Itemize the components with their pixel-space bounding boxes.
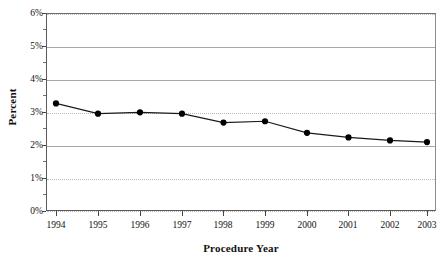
y-tick-label-0: 0% [22, 206, 43, 216]
x-tick-label-1998: 1998 [214, 220, 233, 230]
gridline-5pct [47, 47, 435, 48]
x-tick-label-1999: 1999 [256, 220, 275, 230]
plot-gridlines [47, 14, 435, 210]
x-tick-mark-2003 [427, 211, 428, 216]
y-tick-label-6: 6% [22, 8, 43, 18]
y-tick-label-5: 5% [22, 41, 43, 51]
y-axis-tick-labels: 6% 5% 4% 3% 2% 1% 0% [22, 0, 43, 264]
x-tick-label-2000: 2000 [298, 220, 317, 230]
y-tick-label-3: 3% [22, 107, 43, 117]
y-axis-title-label: Percent [6, 88, 18, 125]
x-tick-mark-2002 [390, 211, 391, 216]
y-tick-mark-0 [42, 211, 46, 212]
x-axis-title: Procedure Year [46, 242, 436, 254]
x-tick-label-1994: 1994 [47, 220, 66, 230]
plot-area [46, 13, 436, 211]
gridline-3pct [47, 113, 435, 114]
gridline-2pct [47, 146, 435, 147]
chart-figure: Percent 6% 5% 4% 3% 2% 1% 0% [0, 0, 445, 264]
x-tick-mark-1996 [140, 211, 141, 216]
gridline-1pct [47, 179, 435, 180]
x-tick-label-1995: 1995 [89, 220, 108, 230]
gridline-4pct [47, 80, 435, 81]
y-axis-title: Percent [0, 0, 24, 214]
x-tick-mark-1994 [56, 211, 57, 216]
x-tick-label-1997: 1997 [173, 220, 192, 230]
x-tick-label-2002: 2002 [381, 220, 400, 230]
x-tick-mark-2000 [307, 211, 308, 216]
x-tick-label-1996: 1996 [131, 220, 150, 230]
gridline-6pct [47, 14, 435, 15]
x-tick-mark-1999 [265, 211, 266, 216]
x-tick-mark-2001 [348, 211, 349, 216]
y-tick-label-4: 4% [22, 74, 43, 84]
x-tick-mark-1997 [182, 211, 183, 216]
gridline-0pct [47, 211, 435, 212]
x-tick-label-2003: 2003 [418, 220, 437, 230]
y-tick-label-2: 2% [22, 140, 43, 150]
x-tick-mark-1998 [223, 211, 224, 216]
y-tick-label-1: 1% [22, 173, 43, 183]
x-tick-mark-1995 [98, 211, 99, 216]
x-tick-label-2001: 2001 [339, 220, 358, 230]
